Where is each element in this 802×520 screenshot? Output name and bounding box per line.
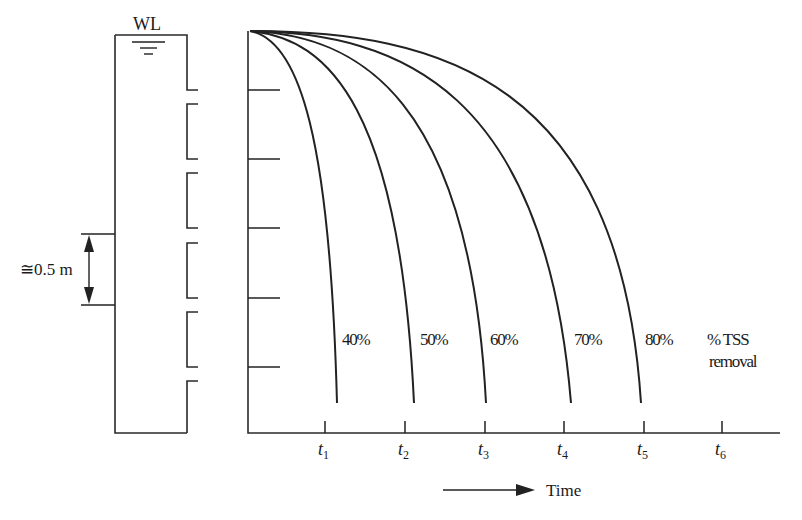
column-wall-segment-3: [187, 243, 198, 298]
x-tick-label-t4: t4: [557, 439, 568, 462]
column-wall-segment-2: [187, 173, 198, 228]
settling-column-diagram: WL ≅0.5 m: [0, 0, 802, 520]
legend-title-line2: removal: [709, 352, 758, 371]
time-axis-label: Time: [546, 481, 581, 500]
spacing-label: ≅0.5 m: [20, 260, 73, 279]
curve-label-50: 50%: [420, 330, 449, 349]
legend-title-line1: % TSS: [707, 330, 749, 349]
column-wall-segment-5: [187, 381, 198, 433]
curve-40: [250, 31, 337, 403]
x-tick-label-t5: t5: [637, 439, 648, 462]
arrow-up-icon: [84, 235, 94, 252]
water-level-label: WL: [133, 14, 161, 34]
curve-50: [250, 31, 414, 403]
time-arrow-icon: [443, 484, 535, 496]
column-wall-segment-4: [187, 312, 198, 367]
curve-label-40: 40%: [342, 330, 371, 349]
arrow-down-icon: [84, 287, 94, 304]
x-tick-label-t2: t2: [398, 439, 409, 462]
settling-column: WL ≅0.5 m: [20, 14, 198, 433]
curve-label-70: 70%: [574, 330, 603, 349]
curve-label-80: 80%: [645, 330, 674, 349]
x-tick-label-t6: t6: [715, 439, 726, 462]
water-level-icon: [132, 42, 165, 54]
x-tick-label-t3: t3: [478, 439, 489, 462]
column-wall-segment-1: [187, 104, 198, 159]
x-ticks: [325, 421, 722, 433]
spacing-dimension: [81, 234, 115, 305]
curve-labels: 40% 50% 60% 70% 80%: [342, 330, 674, 349]
column-left-wall: [115, 35, 187, 433]
column-top-wall: [115, 35, 198, 90]
x-tick-labels: t1 t2 t3 t4 t5 t6: [318, 439, 726, 462]
y-ticks: [248, 90, 280, 367]
isoremoval-chart: t1 t2 t3 t4 t5 t6 40% 50% 60% 70% 80% % …: [248, 31, 780, 500]
curve-label-60: 60%: [490, 330, 519, 349]
x-tick-label-t1: t1: [318, 439, 329, 462]
